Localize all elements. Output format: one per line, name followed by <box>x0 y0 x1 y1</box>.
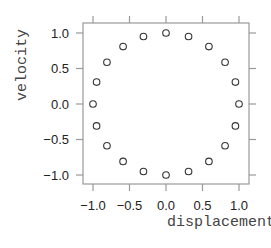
axis-ticks <box>76 16 256 191</box>
data-point <box>120 158 127 165</box>
data-point <box>140 168 147 175</box>
data-points <box>90 30 243 179</box>
data-point <box>222 142 229 149</box>
x-tick-label: 1.0 <box>230 198 248 213</box>
data-point <box>206 158 213 165</box>
data-point <box>120 43 127 50</box>
scatter-chart: −1.0−0.50.00.51.0−1.0−0.50.00.51.0 displ… <box>0 0 271 248</box>
x-axis-title: displacement <box>167 214 271 231</box>
data-point <box>90 101 97 108</box>
y-tick-label: 0.5 <box>51 61 69 76</box>
plot-frame <box>83 23 249 184</box>
data-point <box>163 172 170 179</box>
data-point <box>206 43 213 50</box>
y-tick-label: −1.0 <box>43 168 69 183</box>
y-tick-label: −0.5 <box>43 132 69 147</box>
data-point <box>163 30 170 37</box>
data-point <box>104 142 111 149</box>
x-tick-label: 0.5 <box>193 198 211 213</box>
tick-labels: −1.0−0.50.00.51.0−1.0−0.50.00.51.0 <box>43 26 248 214</box>
data-point <box>185 33 192 40</box>
data-point <box>232 79 239 86</box>
x-tick-label: −0.5 <box>117 198 143 213</box>
x-tick-label: 0.0 <box>157 198 175 213</box>
data-point <box>236 101 243 108</box>
y-tick-label: 1.0 <box>51 26 69 41</box>
data-point <box>140 33 147 40</box>
data-point <box>222 59 229 66</box>
data-point <box>104 59 111 66</box>
data-point <box>232 123 239 130</box>
data-point <box>185 168 192 175</box>
y-tick-label: 0.0 <box>51 97 69 112</box>
y-axis-title: velocity <box>14 29 31 101</box>
data-point <box>93 79 100 86</box>
x-tick-label: −1.0 <box>80 198 106 213</box>
data-point <box>93 123 100 130</box>
plot-border <box>83 23 249 184</box>
